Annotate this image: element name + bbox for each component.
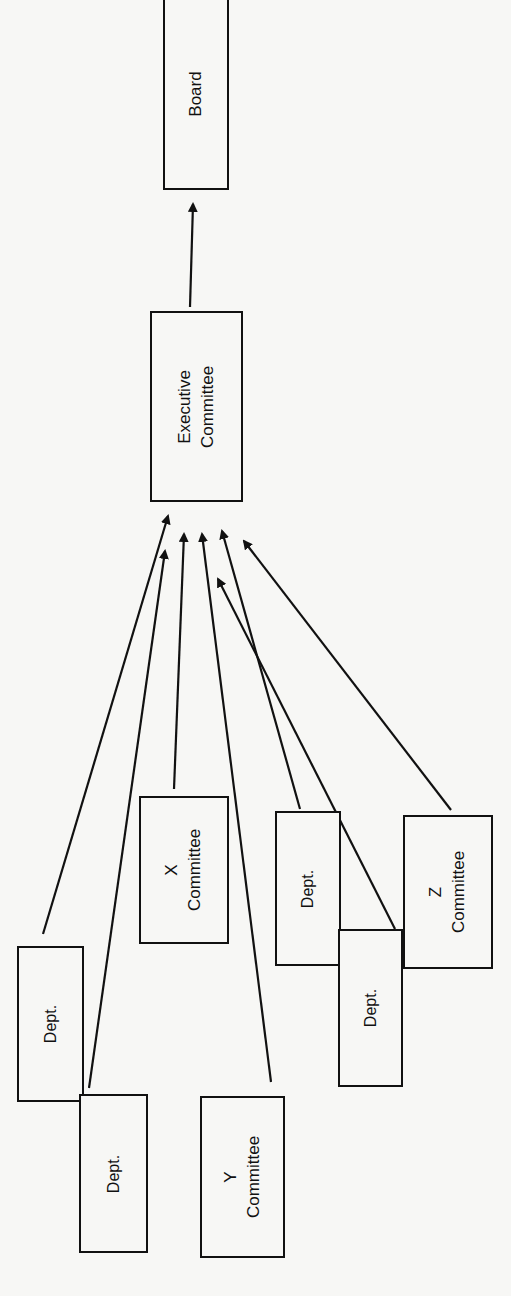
- arrow-dept-mid-top: [222, 531, 300, 809]
- x-committee-box: X Committee: [139, 796, 229, 944]
- y-committee-box: Y Committee: [200, 1096, 285, 1258]
- x-committee-label: X Committee: [161, 829, 207, 911]
- arrow-z-committee: [244, 541, 451, 810]
- board-box: Board: [163, 0, 229, 190]
- dept-left-bottom-box: Dept.: [79, 1094, 148, 1253]
- y-committee-label: Y Committee: [220, 1136, 266, 1218]
- z-committee-box: Z Committee: [403, 815, 493, 969]
- dept-mid-top-label: Dept.: [297, 869, 319, 907]
- board-label: Board: [185, 71, 208, 116]
- z-committee-label: Z Committee: [425, 851, 471, 933]
- dept-left-top-box: Dept.: [17, 946, 84, 1102]
- dept-mid-bottom-box: Dept.: [338, 929, 403, 1087]
- arrow-executive-to-board: [190, 204, 193, 307]
- dept-mid-bottom-label: Dept.: [360, 989, 382, 1027]
- arrow-x-committee: [174, 534, 184, 789]
- dept-left-top-label: Dept.: [40, 1005, 62, 1043]
- dept-mid-top-box: Dept.: [275, 811, 341, 966]
- executive-committee-box: Executive Committee: [150, 311, 243, 502]
- dept-left-bottom-label: Dept.: [103, 1154, 125, 1192]
- executive-committee-label: Executive Committee: [174, 365, 220, 447]
